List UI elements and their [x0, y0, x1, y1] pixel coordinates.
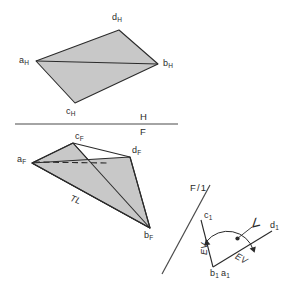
label-d-f: dF [132, 146, 141, 155]
fold-line-hf-label-h: H [140, 112, 147, 122]
angle-leader-dot [235, 236, 239, 240]
label-edge-view-left: EV [200, 243, 209, 255]
geometry-figure-canvas: aH bH cH dH H F aF cF dF bF TL F/1 c1 d1… [0, 0, 295, 296]
descriptive-geometry-drawing [0, 0, 295, 296]
frontal-view-group [32, 143, 150, 228]
label-c-h: cH [66, 107, 76, 116]
label-c-1: c1 [204, 211, 213, 220]
label-a-f: aF [17, 155, 26, 164]
label-a-h: aH [19, 56, 29, 65]
label-d-h: dH [112, 13, 122, 22]
fold-line-hf-label-f: F [140, 127, 146, 137]
fold-line-f1-label: F/1 [190, 183, 206, 193]
label-c-f: cF [75, 132, 84, 141]
horizontal-view-quadrilateral [36, 30, 158, 103]
label-d-1: d1 [270, 221, 279, 230]
label-b1-a1: b1a1 [210, 269, 230, 278]
fold-line-f1 [162, 185, 210, 274]
label-b-f: bF [144, 231, 153, 240]
label-b-h: bH [163, 59, 173, 68]
frontal-view-triangle-adb [32, 157, 150, 228]
horizontal-view-group [36, 30, 158, 103]
angle-symbol-leader-line [238, 227, 252, 238]
dihedral-angle-arc [207, 231, 254, 250]
